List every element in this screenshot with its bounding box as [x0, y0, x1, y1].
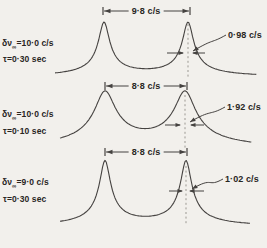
- panel-3-leader-line: [192, 179, 223, 189]
- panel3-separation-label: 8·8 c/s: [129, 147, 164, 157]
- panel-1-width-arrows: [167, 51, 205, 55]
- panel-1-curve: [55, 22, 256, 74]
- panel1-tau-label: τ=0·30 sec: [3, 54, 46, 64]
- panel3-delta-nu-label: δν∞=9·0 c/s: [2, 177, 49, 187]
- panel3-width-label: 1·02 c/s: [225, 174, 259, 184]
- panel2-separation-label: 8·8 c/s: [129, 81, 164, 91]
- delta-nu-symbol: δν: [2, 109, 12, 119]
- delta-nu-symbol: δν: [2, 177, 12, 187]
- panel1-separation-label: 9·8 c/s: [129, 6, 164, 16]
- panel-1-graphics: [55, 7, 256, 77]
- panel-3-curve: [60, 160, 250, 223]
- panel-3-graphics: [60, 148, 250, 225]
- panel1-delta-nu-label: δν∞=10·0 c/s: [2, 38, 54, 48]
- panel-2-graphics: [60, 82, 251, 149]
- delta-nu-value: =9·0 c/s: [16, 177, 48, 187]
- delta-nu-symbol: δν: [2, 38, 12, 48]
- panel-2-curve: [60, 91, 251, 142]
- figure: δν∞=10·0 c/s τ=0·30 sec 9·8 c/s 0·98 c/s…: [0, 0, 267, 248]
- delta-nu-value: =10·0 c/s: [16, 109, 53, 119]
- panel2-tau-label: τ=0·10 sec: [3, 126, 46, 136]
- panel2-delta-nu-label: δν∞=10·0 c/s: [2, 109, 54, 119]
- delta-nu-value: =10·0 c/s: [16, 38, 53, 48]
- panel2-width-label: 1·92 c/s: [227, 102, 261, 112]
- panel1-width-label: 0·98 c/s: [228, 30, 262, 40]
- panel-1-leader-line: [193, 35, 226, 51]
- panel3-tau-label: τ=0·30 sec: [3, 194, 46, 204]
